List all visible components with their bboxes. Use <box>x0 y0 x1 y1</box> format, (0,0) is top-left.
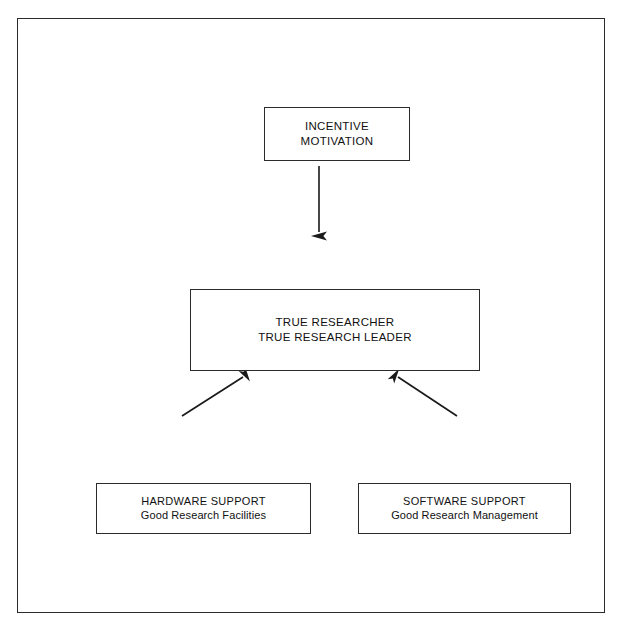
node-hardware-subtitle: Good Research Facilities <box>141 508 266 523</box>
node-researcher-line2: TRUE RESEARCH LEADER <box>258 330 412 345</box>
arrow-hardware-to-researcher <box>182 377 243 416</box>
node-researcher-line1: TRUE RESEARCHER <box>276 315 395 330</box>
node-incentive-line2: MOTIVATION <box>301 134 374 149</box>
node-hardware-title: HARDWARE SUPPORT <box>141 494 266 508</box>
node-software-support: SOFTWARE SUPPORT Good Research Managemen… <box>358 483 571 534</box>
node-software-subtitle: Good Research Management <box>391 508 538 523</box>
node-true-researcher: TRUE RESEARCHER TRUE RESEARCH LEADER <box>190 289 480 371</box>
node-software-title: SOFTWARE SUPPORT <box>403 494 526 508</box>
arrow-software-to-researcher <box>398 377 457 416</box>
node-incentive-motivation: INCENTIVE MOTIVATION <box>264 107 410 161</box>
node-incentive-line1: INCENTIVE <box>305 119 369 134</box>
diagram-page: INCENTIVE MOTIVATION TRUE RESEARCHER TRU… <box>0 0 618 624</box>
diagram-frame: INCENTIVE MOTIVATION TRUE RESEARCHER TRU… <box>17 18 605 613</box>
node-hardware-support: HARDWARE SUPPORT Good Research Facilitie… <box>96 483 311 534</box>
